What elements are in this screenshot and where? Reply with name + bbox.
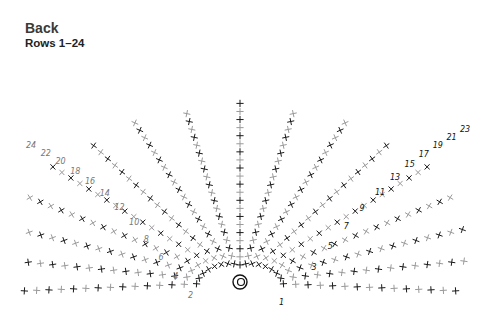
row-label: 4 — [173, 272, 178, 281]
row-label: 7 — [344, 222, 350, 231]
row-label: 20 — [55, 157, 65, 166]
row-label: 18 — [70, 167, 80, 176]
row-label: 13 — [390, 173, 400, 182]
row-label: 3 — [311, 263, 316, 272]
row-label: 12 — [114, 203, 124, 212]
row-label: 8 — [144, 235, 149, 244]
row-label: 24 — [26, 141, 36, 150]
row-label: 21 — [446, 133, 456, 142]
row-label: 15 — [405, 160, 415, 169]
row-label: 19 — [433, 141, 443, 150]
row-label: 22 — [41, 149, 51, 158]
row-label: 2 — [188, 291, 193, 300]
row-label: 6 — [159, 253, 164, 262]
crochet-chart: 246810121416182022241357911131517192123 — [0, 0, 477, 326]
row-label: 17 — [419, 150, 430, 159]
row-label: 23 — [460, 125, 470, 134]
row-label: 9 — [360, 204, 365, 213]
row-label: 11 — [375, 188, 385, 197]
row-label: 16 — [85, 177, 95, 186]
row-label: 5 — [328, 242, 333, 251]
row-label: 10 — [129, 218, 139, 227]
row-label: 14 — [100, 189, 110, 198]
row-label: 1 — [279, 298, 284, 307]
